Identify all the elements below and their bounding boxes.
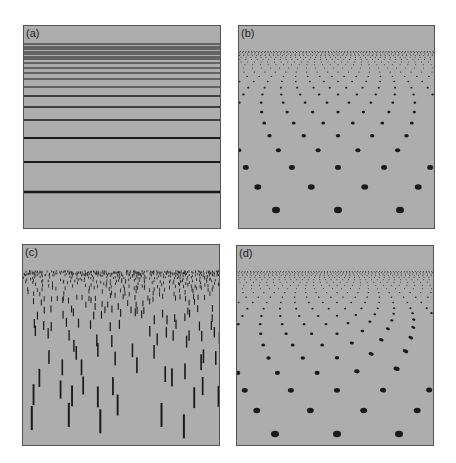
texture-dot [309,52,310,53]
texture-dot [368,320,372,323]
texture-bar [165,276,166,278]
texture-bar [136,302,137,308]
texture-bar [26,271,27,273]
texture-bar [188,330,189,340]
texture-dot [400,57,401,58]
texture-bar [192,288,193,292]
texture-dot [433,277,434,278]
texture-dot [282,55,283,56]
texture-dot [288,68,289,69]
texture-dot [353,64,354,65]
texture-bar [60,279,61,282]
texture-dot [307,76,309,77]
texture-dot [354,369,360,374]
texture-dot [309,277,310,278]
texture-bar [44,307,45,314]
texture-dot [367,297,369,298]
texture-dot [372,51,373,52]
texture-dot [360,274,361,275]
texture-bar [111,335,112,347]
texture-dot [257,272,258,273]
texture-dot [378,87,380,89]
texture-dot [367,285,368,286]
texture-dot [415,55,416,56]
texture-bar [71,385,73,406]
texture-bar [157,285,158,288]
texture-dot [417,52,418,53]
texture-bar [45,274,46,276]
texture-dot [407,64,408,65]
texture-dot [238,302,240,303]
texture-bar [120,289,121,293]
texture-bar [193,294,194,299]
texture-dot [408,335,414,340]
texture-dot [298,315,300,317]
texture-dot [402,51,403,52]
texture-dot [334,388,340,393]
texture-dot [324,68,325,69]
texture-bar [97,387,99,408]
texture-dot [336,134,340,138]
texture-dot [344,285,345,286]
texture-dot [319,76,321,77]
texture-bar [169,286,170,290]
texture-dot [396,207,404,213]
texture-dot [368,352,374,357]
texture-bar [107,302,108,308]
texture-bar [119,320,120,329]
texture-dot [358,51,359,52]
texture-bar [31,406,33,430]
texture-bar [41,280,42,283]
texture-dot [350,55,351,56]
texture-bar [129,274,130,276]
texture-dot [391,297,393,298]
texture-dot [333,282,334,283]
texture-dot [411,52,412,53]
texture-bar [146,277,147,279]
texture-dot [316,71,317,72]
texture-dot [400,282,401,283]
texture-bar [166,327,167,337]
texture-bar [163,281,164,284]
texture-dot [247,87,249,89]
texture-dot [358,275,359,276]
texture-dot [413,53,414,54]
texture-dot [294,271,295,272]
texture-dot [353,51,354,52]
texture-dot [330,297,332,298]
texture-dot [266,272,267,273]
texture-bar [179,283,180,286]
texture-dot [240,61,241,62]
texture-dot [350,341,355,345]
texture-bar [40,276,41,278]
texture-dot [396,68,397,69]
texture-dot [259,275,260,276]
texture-dot [279,279,280,280]
texture-dot [373,313,376,315]
texture-dot [415,271,416,272]
texture-dot [282,272,283,273]
texture-dot [289,272,290,273]
texture-bar [132,274,133,276]
texture-bar [93,277,94,279]
texture-dot [366,275,367,276]
texture-dot [380,55,381,56]
texture-dot [372,52,373,53]
texture-bar [48,280,49,283]
texture-dot [260,272,261,273]
texture-bar [213,285,214,288]
texture-dot [388,52,389,53]
texture-dot [393,271,394,272]
texture-bar [39,369,41,387]
texture-dot [239,52,240,53]
texture-dot [301,272,302,273]
texture-dot [364,302,366,303]
texture-dot [424,53,425,54]
texture-dot [351,121,355,124]
texture-dot [305,57,306,58]
texture-dot [306,53,307,54]
texture-dot [297,68,298,69]
texture-dot [253,274,254,275]
texture-dot [239,81,241,82]
texture-bar [73,273,74,275]
